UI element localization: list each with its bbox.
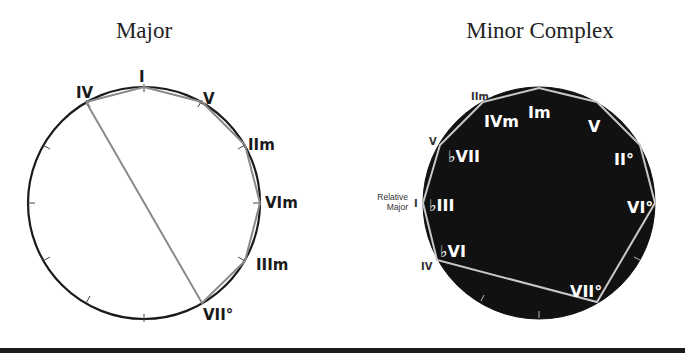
relative-major-line1: Relative (377, 192, 408, 202)
label-Im: Im (528, 103, 551, 122)
outer-label-IV: IV (421, 261, 433, 272)
outer-label-V: V (429, 136, 437, 147)
label-IVm: IVm (484, 112, 519, 131)
label-V: V (203, 90, 215, 108)
label-bVII: ♭VII (448, 147, 480, 166)
label-IIIm: IIIm (256, 256, 288, 274)
label-IIm: IIm (248, 136, 275, 154)
label-IIo: II° (614, 150, 634, 169)
label-bVI: ♭VI (440, 242, 466, 261)
outer-label-IIm: IIm (471, 91, 489, 102)
label-VIm: VIm (265, 194, 298, 212)
bottom-rule (0, 348, 685, 353)
label-I: I (139, 68, 145, 86)
outer-label-I: I (414, 198, 418, 209)
label-VIIo: VII° (203, 306, 233, 324)
label-bIII: ♭III (429, 196, 454, 215)
minor-circle-diagram: Im V II° VI° VII° ♭VI ♭III ♭VII IVm IIm … (377, 87, 655, 319)
major-circle-diagram: I V IIm VIm IIIm VII° IV (27, 68, 298, 324)
relative-major-line2: Major (387, 202, 408, 212)
label-IV: IV (76, 84, 94, 102)
label-VIo: VI° (627, 198, 653, 217)
label-VIIo-minor: VII° (570, 282, 602, 301)
key-circles-diagram: I V IIm VIm IIIm VII° IV Im V II° VI° VI… (0, 0, 685, 354)
label-V-minor: V (588, 117, 601, 136)
major-progression-path (86, 87, 260, 303)
